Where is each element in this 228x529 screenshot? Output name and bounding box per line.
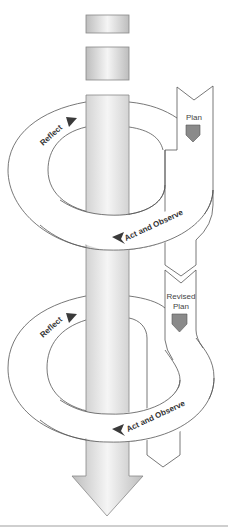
baseline-divider bbox=[0, 525, 228, 527]
revised-plan-label-line1: Revised bbox=[167, 292, 196, 301]
reflect-arrow-icon-1 bbox=[66, 117, 77, 127]
action-research-spiral-diagram: Plan Revised Plan Reflect Act and Observ… bbox=[0, 0, 228, 529]
plan-label: Plan bbox=[186, 113, 202, 122]
main-column-arrow bbox=[72, 95, 143, 516]
column-segment-top bbox=[86, 15, 129, 33]
column-segment-second bbox=[86, 47, 129, 80]
revised-plan-label-line2: Plan bbox=[173, 302, 189, 311]
reflect-label-2: Reflect bbox=[38, 315, 64, 340]
reflect-label-1: Reflect bbox=[38, 123, 64, 148]
reflect-arrow-icon-2 bbox=[66, 313, 77, 323]
